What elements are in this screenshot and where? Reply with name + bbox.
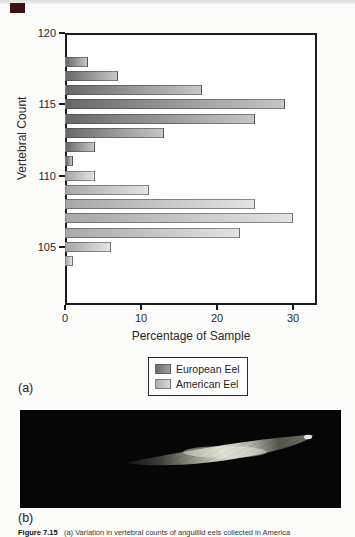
bar-115 (65, 99, 285, 109)
figure-caption: Figure 7.15 (a) Variation in vertebral c… (18, 527, 348, 537)
legend-swatch-icon (155, 364, 171, 374)
bar-113 (65, 128, 164, 138)
eel-head-highlight (304, 435, 312, 439)
bar-104 (65, 256, 73, 266)
bar-108 (65, 199, 255, 209)
x-tick-20 (216, 305, 218, 310)
chart-legend: European EelAmerican Eel (148, 357, 248, 396)
eel-photo (20, 410, 341, 508)
bar-118 (65, 57, 88, 67)
eel-image (20, 410, 341, 508)
x-axis-title: Percentage of Sample (65, 329, 317, 343)
panel-label-a: (a) (18, 381, 33, 395)
book-page: Vertebral Count 1201151101050102030 Perc… (0, 0, 355, 537)
x-tick-label-30: 30 (281, 312, 305, 324)
y-tick-120 (59, 32, 65, 34)
x-tick-10 (140, 305, 142, 310)
bar-110 (65, 171, 95, 181)
y-tick-105 (59, 246, 65, 248)
figure-caption-number: Figure 7.15 (18, 528, 58, 537)
legend-label: American Eel (176, 378, 238, 390)
x-tick-label-20: 20 (205, 312, 229, 324)
panel-label-b: (b) (18, 511, 33, 525)
bar-105 (65, 242, 111, 252)
x-tick-0 (64, 305, 66, 310)
bar-106 (65, 228, 240, 238)
bar-107 (65, 213, 293, 223)
bar-109 (65, 185, 149, 195)
legend-swatch-icon (155, 379, 171, 389)
bar-116 (65, 85, 202, 95)
y-tick-label-115: 115 (32, 98, 56, 110)
figure-caption-text: (a) Variation in vertebral counts of ang… (64, 528, 290, 537)
y-tick-115 (59, 103, 65, 105)
y-tick-label-105: 105 (32, 241, 56, 253)
x-tick-30 (292, 305, 294, 310)
bar-111 (65, 156, 73, 166)
y-tick-label-110: 110 (32, 170, 56, 182)
x-tick-label-0: 0 (53, 312, 77, 324)
bar-117 (65, 71, 118, 81)
legend-item-european-eel: European Eel (155, 361, 240, 376)
x-tick-label-10: 10 (129, 312, 153, 324)
y-tick-label-120: 120 (32, 27, 56, 39)
y-tick-110 (59, 175, 65, 177)
bar-114 (65, 114, 255, 124)
page-top-strip (0, 0, 355, 4)
legend-item-american-eel: American Eel (155, 376, 240, 391)
legend-label: European Eel (176, 363, 240, 375)
bar-112 (65, 142, 95, 152)
y-axis-title: Vertebral Count (15, 150, 29, 180)
page-corner-mark (10, 3, 25, 13)
